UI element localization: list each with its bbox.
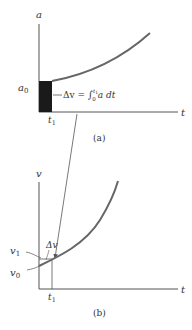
delta-v-integral-label: Δv = ∫t10a dt bbox=[63, 88, 116, 102]
acceleration-curve bbox=[52, 33, 150, 81]
v-axis-label: v bbox=[36, 168, 42, 179]
caption-a: (a) bbox=[93, 133, 105, 143]
t-axis-label-bottom: t bbox=[181, 284, 186, 295]
delta-v-label: Δv bbox=[45, 240, 58, 250]
t-axis-label-top: t bbox=[181, 107, 186, 118]
a-axis-label: a bbox=[36, 9, 42, 20]
acceleration-velocity-diagram: a t a0 t1 Δv = ∫t10a dt (a) v t v1 v0 Δv… bbox=[0, 0, 192, 330]
a0-label: a0 bbox=[18, 82, 28, 95]
velocity-graph: v t v1 v0 Δv t1 (b) bbox=[10, 168, 186, 318]
delta-v-leader bbox=[46, 250, 49, 260]
t1-label-top: t1 bbox=[48, 115, 56, 127]
v1-label: v1 bbox=[10, 245, 20, 258]
acceleration-graph: a t a0 t1 Δv = ∫t10a dt (a) bbox=[18, 9, 186, 143]
v0-label: v0 bbox=[10, 267, 20, 280]
shaded-area bbox=[39, 81, 52, 112]
caption-b: (b) bbox=[93, 308, 106, 318]
v0-leader bbox=[27, 266, 39, 270]
velocity-curve bbox=[39, 181, 118, 266]
connector-arrow bbox=[55, 114, 77, 258]
t1-label-bottom: t1 bbox=[48, 292, 56, 304]
